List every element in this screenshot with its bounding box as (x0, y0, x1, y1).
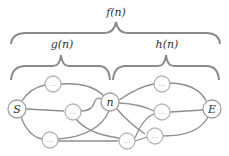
brace-h-n (113, 55, 219, 80)
label-g-n: g(n) (51, 38, 74, 51)
node-intermediate-top-right: … (154, 76, 170, 92)
node-end: E (203, 100, 221, 118)
svg-text:…: … (50, 80, 57, 88)
brace-g-n (11, 55, 110, 80)
svg-text:…: … (47, 136, 54, 144)
node-intermediate-bottom-right: … (147, 128, 163, 144)
svg-text:E: E (207, 103, 216, 116)
svg-text:…: … (124, 137, 131, 145)
node-start: S (8, 100, 26, 118)
node-intermediate-mid-right: … (154, 104, 170, 120)
svg-text:n: n (106, 96, 113, 109)
node-current: n (101, 93, 119, 111)
node-intermediate-top-left: … (45, 76, 61, 92)
label-f-n: f(n) (105, 6, 126, 19)
svg-text:…: … (152, 132, 159, 140)
brace-f-n (11, 22, 220, 44)
svg-text:S: S (13, 103, 21, 116)
svg-text:…: … (159, 80, 166, 88)
svg-text:…: … (159, 108, 166, 116)
search-path-diagram: f(n) g(n) h(n) (0, 0, 229, 156)
node-intermediate-bottom-left: … (42, 132, 58, 148)
svg-text:…: … (70, 108, 77, 116)
node-intermediate-mid-left: … (65, 104, 81, 120)
label-h-n: h(n) (156, 38, 179, 51)
node-intermediate-bottom-mid: … (119, 133, 135, 149)
